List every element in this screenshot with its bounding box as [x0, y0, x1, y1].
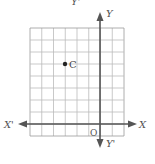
- x-axis-left-arrow-icon: [18, 121, 27, 128]
- point-c-label: C: [69, 59, 77, 70]
- label-x: X: [138, 119, 147, 130]
- y-axis-down-arrow-icon: [97, 139, 104, 148]
- x-axis-right-arrow-icon: [128, 121, 137, 128]
- label-bottom-y-prime: Y': [106, 138, 115, 149]
- coordinate-plane-diagram: Y' Y X' X O Y' C: [0, 0, 155, 164]
- axes: [18, 12, 137, 148]
- label-origin: O: [90, 128, 97, 138]
- y-axis-up-arrow-icon: [97, 12, 104, 21]
- grid: [30, 28, 124, 136]
- label-x-prime: X': [3, 119, 14, 130]
- label-top-y-prime: Y': [71, 0, 80, 7]
- point-c-dot: [63, 62, 67, 66]
- label-y: Y: [106, 8, 114, 19]
